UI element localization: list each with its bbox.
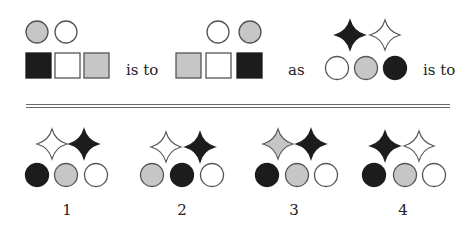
- option-2-gray-circle-icon: [141, 164, 164, 187]
- option-3-gray-circle-icon: [286, 164, 309, 187]
- figure-a-white-square-icon: [55, 53, 80, 78]
- answer-option-4[interactable]: [363, 131, 446, 187]
- figure-a-white-circle-icon: [55, 21, 77, 43]
- answer-option-1[interactable]: [26, 129, 108, 187]
- figure-b-white-square-icon: [206, 53, 231, 78]
- option-4-white-circle-icon: [423, 164, 446, 187]
- answer-option-2[interactable]: [141, 132, 224, 187]
- figure-b-gray-square-icon: [176, 53, 201, 78]
- option-2-white-circle-icon: [201, 164, 224, 187]
- figure-c-white-circle-icon: [326, 57, 349, 80]
- option-2-black-star-icon: [185, 132, 215, 162]
- figure-b-black-square-icon: [237, 53, 262, 78]
- option-4-black-star-icon: [370, 131, 400, 161]
- answer-option-3[interactable]: [256, 129, 338, 187]
- option-1-black-star-icon: [69, 129, 99, 159]
- figure-c-black-circle-icon: [384, 57, 407, 80]
- option-number-3[interactable]: 3: [289, 203, 299, 218]
- connector-is-to-2: is to: [423, 63, 455, 78]
- figure-c-gray-circle-icon: [355, 57, 378, 80]
- option-number-4[interactable]: 4: [398, 203, 408, 218]
- option-3-gray-star-icon: [263, 129, 293, 159]
- figure-b: [176, 21, 262, 78]
- option-4-gray-circle-icon: [394, 164, 417, 187]
- option-4-black-circle-icon: [363, 164, 386, 187]
- option-3-black-star-icon: [296, 129, 326, 159]
- connector-as: as: [288, 63, 305, 78]
- puzzle-figures: [0, 0, 473, 231]
- figure-a-gray-circle-icon: [26, 21, 48, 43]
- option-1-black-circle-icon: [26, 164, 49, 187]
- option-3-black-circle-icon: [256, 164, 279, 187]
- figure-a-black-square-icon: [26, 53, 51, 78]
- figure-a-gray-square-icon: [84, 53, 109, 78]
- figure-c-black-star-icon: [335, 20, 365, 50]
- separator-line-top: [26, 104, 450, 105]
- option-2-black-circle-icon: [171, 164, 194, 187]
- option-number-2[interactable]: 2: [177, 203, 187, 218]
- figure-b-gray-circle-icon: [239, 21, 261, 43]
- connector-is-to-1: is to: [126, 63, 158, 78]
- figure-a: [26, 21, 109, 78]
- option-number-1[interactable]: 1: [62, 203, 72, 218]
- separator-line-bottom: [26, 107, 450, 108]
- figure-b-white-circle-icon: [207, 21, 229, 43]
- option-3-white-circle-icon: [315, 164, 338, 187]
- option-1-gray-circle-icon: [55, 164, 78, 187]
- option-2-white-star-icon: [151, 132, 181, 162]
- analogy-puzzle: is to as is to 1 2 3 4: [0, 0, 473, 231]
- option-1-white-circle-icon: [85, 164, 108, 187]
- figure-c: [326, 20, 407, 80]
- figure-c-white-star-icon: [370, 20, 400, 50]
- option-1-white-star-icon: [37, 129, 67, 159]
- option-4-white-star-icon: [404, 131, 434, 161]
